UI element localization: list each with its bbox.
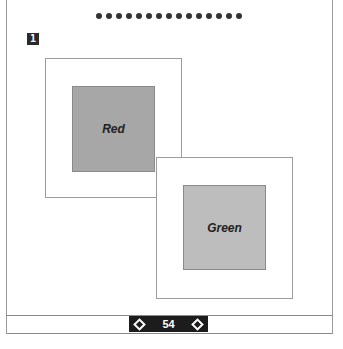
- dot: [136, 13, 142, 19]
- dot: [116, 13, 122, 19]
- dot: [236, 13, 242, 19]
- dot: [216, 13, 222, 19]
- dot: [146, 13, 152, 19]
- green-window[interactable]: Green: [183, 185, 266, 270]
- dot: [96, 13, 102, 19]
- page-number: 54: [162, 318, 174, 330]
- dot: [166, 13, 172, 19]
- green-window-label: Green: [207, 221, 242, 235]
- red-window-label: Red: [102, 122, 125, 136]
- dot: [156, 13, 162, 19]
- dot: [126, 13, 132, 19]
- dot: [206, 13, 212, 19]
- prev-page-icon[interactable]: [133, 318, 146, 331]
- red-window[interactable]: Red: [72, 86, 155, 172]
- next-page-icon[interactable]: [191, 318, 204, 331]
- dot: [196, 13, 202, 19]
- dot: [186, 13, 192, 19]
- dot: [226, 13, 232, 19]
- dot: [106, 13, 112, 19]
- page-navigator: 54: [129, 316, 208, 332]
- step-number-badge: 1: [27, 33, 39, 45]
- dot: [176, 13, 182, 19]
- dot-separator: [96, 13, 242, 19]
